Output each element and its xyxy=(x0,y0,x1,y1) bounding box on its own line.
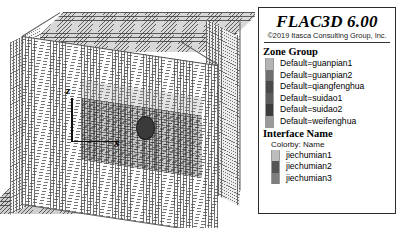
legend-color-swatch xyxy=(265,93,274,105)
legend-color-swatch xyxy=(265,116,274,128)
axis-label-x: x xyxy=(114,136,120,148)
axis-line-z xyxy=(71,98,73,142)
legend-item[interactable]: jiechumian3 xyxy=(259,173,395,185)
legend-section-heading: Interface Name xyxy=(263,128,395,140)
legend-section-heading: Zone Group xyxy=(263,46,395,58)
cube-edge-back-right xyxy=(240,22,241,191)
legend-item[interactable]: Default=suidao1 xyxy=(259,93,395,105)
axis-triad: z x xyxy=(62,88,132,150)
legend-item-list: jiechumian1jiechumian2jiechumian3 xyxy=(259,150,395,185)
legend-color-swatch xyxy=(265,70,274,82)
legend-item[interactable]: Default=weifenghua xyxy=(259,116,395,128)
legend-item-label: Default=qiangfenghua xyxy=(280,81,364,93)
legend-item[interactable]: Default=qiangfenghua xyxy=(259,81,395,93)
legend-sections: Zone GroupDefault=guanpian1Default=guanp… xyxy=(259,46,395,184)
legend-item[interactable]: jiechumian1 xyxy=(259,150,395,162)
legend-copyright: ©2019 Itasca Consulting Group, Inc. xyxy=(259,31,395,40)
legend-item-label: jiechumian3 xyxy=(286,173,332,185)
legend-color-swatch xyxy=(265,81,274,93)
legend-item-label: Default=weifenghua xyxy=(280,116,356,128)
legend-panel[interactable]: FLAC3D 6.00 ©2019 Itasca Consulting Grou… xyxy=(258,7,396,214)
legend-item-label: Default=guanpian2 xyxy=(280,70,352,82)
legend-color-swatch xyxy=(265,58,274,70)
legend-color-swatch xyxy=(271,161,280,173)
cube-edge-front-left xyxy=(22,37,23,206)
legend-color-swatch xyxy=(265,104,274,116)
legend-color-swatch xyxy=(271,173,280,185)
model-stage: z x xyxy=(0,0,255,228)
legend-title: FLAC3D 6.00 xyxy=(259,12,395,31)
legend-divider xyxy=(264,42,390,43)
legend-item[interactable]: Default=suidao2 xyxy=(259,104,395,116)
legend-section-subtitle: Colorby: Name xyxy=(271,140,395,150)
axis-label-z: z xyxy=(66,84,70,96)
legend-item[interactable]: Default=guanpian2 xyxy=(259,70,395,82)
tunnel-cross-section xyxy=(136,116,155,140)
legend-item-label: jiechumian2 xyxy=(286,161,332,173)
legend-item-label: Default=suidao2 xyxy=(280,104,342,116)
legend-item[interactable]: Default=guanpian1 xyxy=(259,58,395,70)
axis-line-x xyxy=(71,141,119,143)
legend-color-swatch xyxy=(271,150,280,162)
legend-item-list: Default=guanpian1Default=guanpian2Defaul… xyxy=(259,58,395,128)
legend-item-label: jiechumian1 xyxy=(286,150,332,162)
model-viewport[interactable]: z x xyxy=(0,0,255,228)
legend-item-label: Default=suidao1 xyxy=(280,93,342,105)
legend-item[interactable]: jiechumian2 xyxy=(259,161,395,173)
legend-item-label: Default=guanpian1 xyxy=(280,58,352,70)
